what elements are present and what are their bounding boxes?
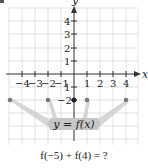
y-axis-label: y xyxy=(71,0,79,7)
y-tick-label: 4 xyxy=(64,16,70,27)
y-tick-label: 1 xyxy=(64,56,70,67)
y-tick-label: 2 xyxy=(64,43,70,54)
y-axis-arrow-icon xyxy=(71,6,77,13)
point xyxy=(124,98,129,103)
coordinate-graph: x y −4 −3 −2 −1 1 2 3 4 4 3 2 1 1 −2 y =… xyxy=(0,0,148,168)
x-tick-label: 2 xyxy=(97,78,103,89)
point xyxy=(46,98,51,103)
point xyxy=(72,98,77,103)
point xyxy=(8,98,13,103)
function-label: y = f(x) xyxy=(52,118,94,131)
x-axis-label: x xyxy=(142,68,148,81)
question-text: f(−5) + f(4) = ? xyxy=(0,149,148,161)
point xyxy=(85,98,90,103)
x-tick-label: 1 xyxy=(84,78,90,89)
x-axis-arrow-icon xyxy=(134,71,141,77)
y-tick-label: 1 xyxy=(64,82,70,93)
y-tick-label: −2 xyxy=(57,95,72,106)
x-tick-label: 3 xyxy=(110,78,116,89)
y-tick-label: 3 xyxy=(64,29,70,40)
x-tick-label: 4 xyxy=(123,78,129,89)
